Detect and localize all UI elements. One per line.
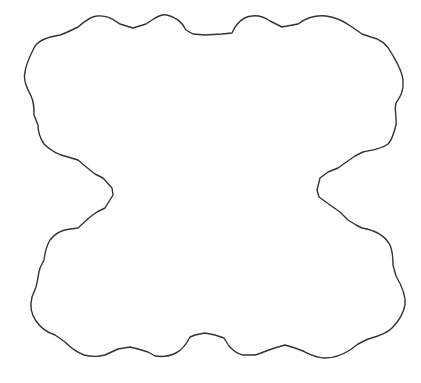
fractal-outline-figure [0,0,421,383]
fractal-cloud-outline [24,15,405,358]
drawing-canvas: Fractal cloud-like closed outline shaped… [0,0,421,383]
